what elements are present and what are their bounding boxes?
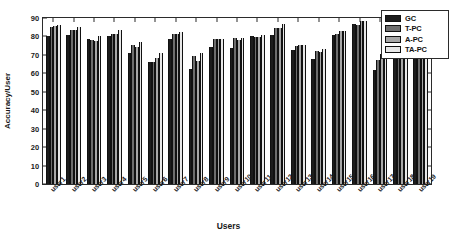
legend-label-T-PC: T-PC — [405, 24, 422, 33]
legend: GCT-PCA-PCTA-PC — [381, 10, 449, 59]
accuracy-per-user-bar-chart: Accuracy/User 0102030405060708090 user1u… — [0, 0, 457, 241]
y-tick-label: 30 — [31, 124, 43, 133]
bar-user13-TA-PC — [302, 45, 306, 184]
bar-user7-TA-PC — [179, 32, 183, 184]
bar-user11-TA-PC — [261, 35, 265, 184]
y-tick-label: 70 — [31, 50, 43, 59]
bar-user12-TA-PC — [282, 24, 286, 184]
bar-user10-TA-PC — [241, 38, 245, 184]
bar-user1-TA-PC — [57, 25, 61, 184]
legend-swatch-A-PC — [385, 36, 401, 43]
bar-group — [332, 18, 347, 184]
bar-group — [148, 18, 163, 184]
bar-user9-TA-PC — [220, 39, 224, 184]
bar-user16-TA-PC — [363, 21, 367, 184]
x-axis-label: Users — [0, 221, 457, 231]
bar-group — [270, 18, 285, 184]
bar-group — [128, 18, 143, 184]
legend-swatch-TA-PC — [385, 46, 401, 53]
y-tick-label: 50 — [31, 87, 43, 96]
bar-group — [46, 18, 61, 184]
bar-group — [311, 18, 326, 184]
legend-item-T-PC: T-PC — [385, 24, 445, 34]
bar-user17-TA-PC — [384, 48, 388, 184]
bar-user5-TA-PC — [139, 42, 143, 184]
bar-group — [250, 18, 265, 184]
y-tick-label: 0 — [35, 180, 43, 189]
y-tick-label: 20 — [31, 143, 43, 152]
bar-user15-TA-PC — [343, 31, 347, 184]
legend-swatch-T-PC — [385, 25, 401, 32]
y-tick-label: 90 — [31, 14, 43, 23]
legend-item-TA-PC: TA-PC — [385, 45, 445, 55]
y-tick-label: 10 — [31, 161, 43, 170]
legend-item-GC: GC — [385, 13, 445, 23]
bar-group — [230, 18, 245, 184]
y-tick-label: 40 — [31, 106, 43, 115]
bar-user14-TA-PC — [322, 49, 326, 184]
legend-label-GC: GC — [405, 14, 416, 23]
bar-group — [168, 18, 183, 184]
y-axis-label: Accuracy/User — [3, 73, 12, 129]
legend-swatch-GC — [385, 15, 401, 22]
bar-group — [189, 18, 204, 184]
plot-area: 0102030405060708090 — [42, 17, 432, 185]
y-tick-label: 80 — [31, 32, 43, 41]
bar-user3-TA-PC — [98, 36, 102, 184]
legend-label-A-PC: A-PC — [405, 35, 423, 44]
legend-label-TA-PC: TA-PC — [405, 45, 427, 54]
bar-group — [66, 18, 81, 184]
bar-group — [209, 18, 224, 184]
y-tick-label: 60 — [31, 69, 43, 78]
bar-user8-TA-PC — [200, 53, 204, 184]
bar-user4-TA-PC — [118, 30, 122, 184]
bar-group — [291, 18, 306, 184]
bar-group — [352, 18, 367, 184]
bar-group — [107, 18, 122, 184]
bar-group — [87, 18, 102, 184]
legend-item-A-PC: A-PC — [385, 34, 445, 44]
bar-user2-TA-PC — [77, 27, 81, 184]
bar-user6-TA-PC — [159, 53, 163, 184]
